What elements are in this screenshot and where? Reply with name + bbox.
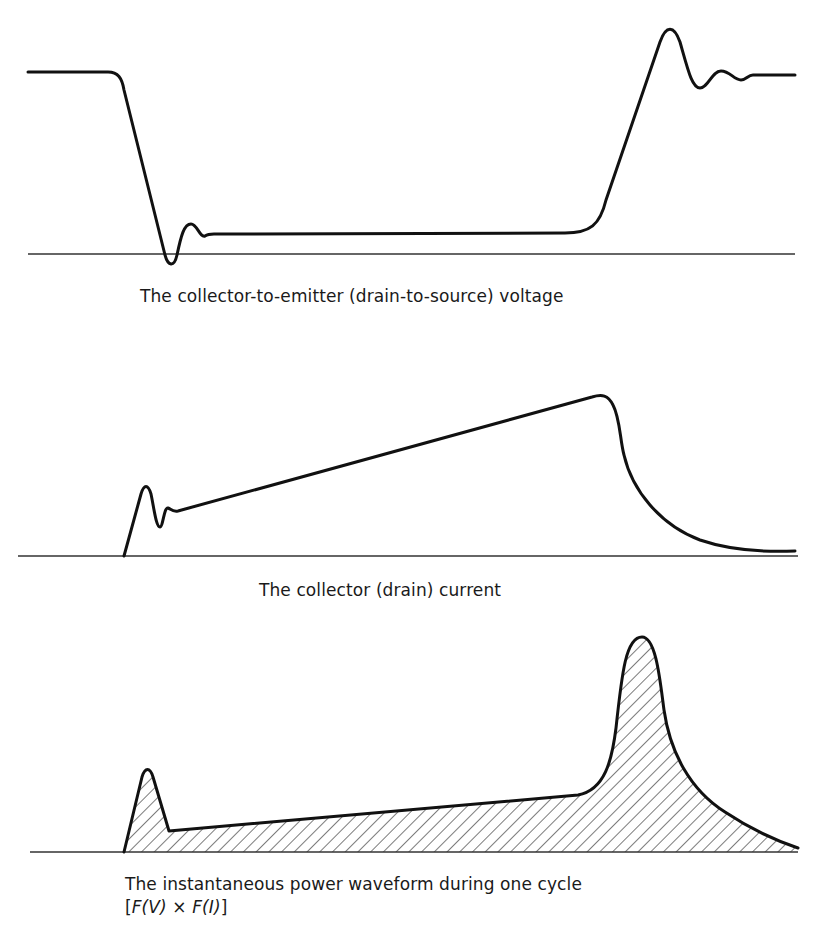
waveform-figure <box>0 0 832 939</box>
power-panel <box>30 637 798 852</box>
formula-close-bracket: ] <box>221 897 228 917</box>
formula-times: × <box>167 897 192 917</box>
voltage-waveform <box>28 29 795 264</box>
formula-open-bracket: [ <box>125 897 132 917</box>
voltage-caption: The collector-to-emitter (drain-to-sourc… <box>140 286 564 306</box>
power-formula: [F(V) × F(I)] <box>125 897 227 917</box>
power-caption: The instantaneous power waveform during … <box>125 874 582 894</box>
current-caption: The collector (drain) current <box>259 580 501 600</box>
power-hatched-area <box>124 637 798 852</box>
current-panel <box>18 396 798 556</box>
voltage-panel <box>28 29 795 264</box>
formula-fi: F(I) <box>192 897 220 917</box>
current-waveform <box>124 396 795 556</box>
formula-fv: F(V) <box>132 897 167 917</box>
